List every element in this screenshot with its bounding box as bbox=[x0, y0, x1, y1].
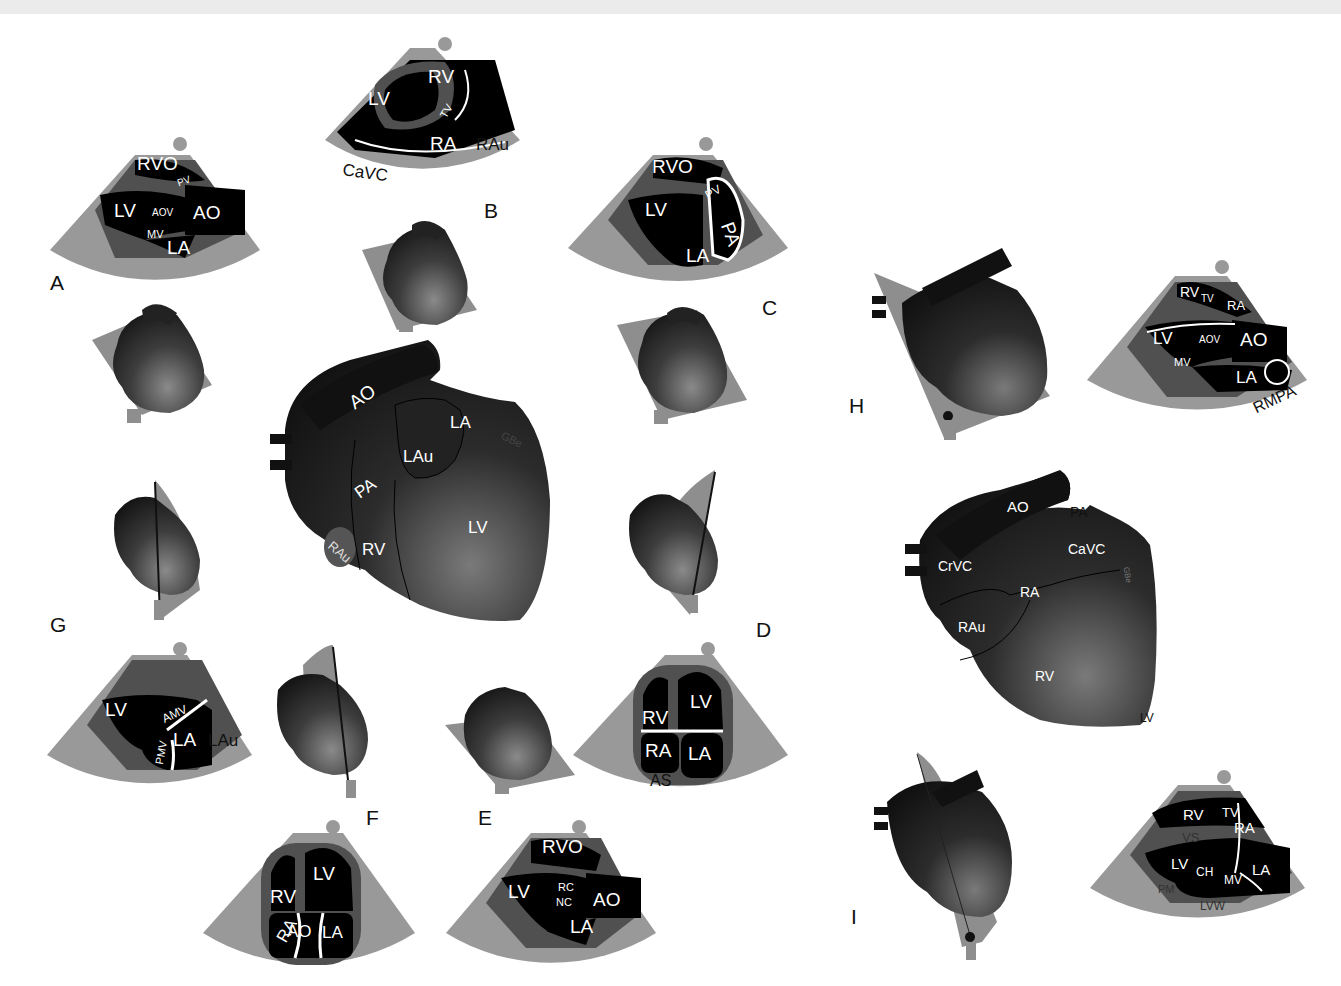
heart-r-cavc: CaVC bbox=[1068, 541, 1105, 557]
a-la: LA bbox=[167, 237, 191, 258]
small-heart-c bbox=[617, 307, 747, 424]
i-la: LA bbox=[1252, 861, 1270, 878]
i-lvw: LVW bbox=[1200, 899, 1226, 913]
panel-letter-h: H bbox=[849, 394, 864, 417]
d-lv: LV bbox=[690, 691, 712, 712]
e-rc: RC bbox=[558, 881, 574, 893]
panel-letter-a: A bbox=[50, 271, 64, 294]
f-ao: AO bbox=[287, 922, 312, 941]
h-mv: MV bbox=[1174, 356, 1191, 368]
e-la: LA bbox=[570, 916, 594, 937]
f-lv: LV bbox=[313, 863, 335, 884]
h-ao: AO bbox=[1240, 329, 1267, 350]
echo-view-h bbox=[1087, 260, 1307, 409]
h-lv: LV bbox=[1153, 329, 1173, 348]
panel-letter-g: G bbox=[50, 613, 66, 636]
panel-letter-i: I bbox=[851, 905, 857, 928]
e-nc: NC bbox=[556, 896, 572, 908]
b-rau: RAu bbox=[476, 135, 509, 154]
e-ao: AO bbox=[593, 889, 620, 910]
i-lv: LV bbox=[1171, 855, 1188, 872]
e-lv: LV bbox=[508, 881, 530, 902]
heart-l-lau: LAu bbox=[403, 447, 433, 466]
i-mv: MV bbox=[1224, 873, 1242, 887]
panel-letter-d: D bbox=[756, 618, 771, 641]
i-pm: PM bbox=[1158, 883, 1175, 895]
f-rv: RV bbox=[270, 886, 296, 907]
panel-letter-b: B bbox=[484, 199, 498, 222]
heart-l-la: LA bbox=[450, 413, 471, 432]
i-ch: CH bbox=[1196, 865, 1213, 879]
small-heart-i bbox=[874, 752, 1012, 960]
small-heart-d bbox=[629, 470, 718, 615]
a-ao: AO bbox=[193, 202, 220, 223]
c-la: LA bbox=[686, 245, 710, 266]
f-la: LA bbox=[322, 923, 343, 942]
g-lv: LV bbox=[105, 699, 127, 720]
e-rvo: RVO bbox=[542, 836, 583, 857]
heart-r-lv: LV bbox=[1140, 711, 1154, 725]
a-aov: AOV bbox=[152, 207, 173, 218]
i-rv: RV bbox=[1183, 806, 1204, 823]
d-ra: RA bbox=[645, 740, 672, 761]
echo-view-d bbox=[573, 642, 788, 786]
small-heart-h bbox=[872, 248, 1050, 440]
h-rv: RV bbox=[1180, 284, 1200, 300]
d-la: LA bbox=[688, 743, 712, 764]
heart-r-rau: RAu bbox=[958, 619, 985, 635]
i-tv: TV bbox=[1222, 805, 1239, 820]
heart-l-rv: RV bbox=[362, 540, 386, 559]
g-lau: LAu bbox=[208, 731, 238, 750]
heart-r-rv: RV bbox=[1035, 668, 1055, 684]
small-heart-g bbox=[114, 480, 200, 620]
c-lv: LV bbox=[645, 199, 667, 220]
i-vs: VS bbox=[1182, 830, 1200, 845]
h-ra: RA bbox=[1227, 298, 1245, 313]
h-tv: TV bbox=[1201, 293, 1214, 304]
a-rvo: RVO bbox=[137, 153, 178, 174]
small-heart-e bbox=[445, 687, 575, 794]
panel-letter-c: C bbox=[762, 296, 777, 319]
center-heart-lateral bbox=[270, 340, 550, 621]
b-rv: RV bbox=[428, 66, 454, 87]
echo-view-f bbox=[203, 820, 415, 965]
b-ra: RA bbox=[430, 133, 457, 154]
heart-r-ao: AO bbox=[1007, 498, 1029, 515]
echo-view-g bbox=[47, 642, 252, 783]
heart-l-lv: LV bbox=[468, 518, 488, 537]
small-heart-a bbox=[92, 304, 212, 423]
d-rv: RV bbox=[642, 707, 668, 728]
heart-r-pa: PA bbox=[1070, 504, 1088, 520]
heart-r-crvc: CrVC bbox=[938, 558, 972, 574]
i-ra: RA bbox=[1234, 819, 1255, 836]
h-la: LA bbox=[1236, 368, 1257, 387]
a-mv: MV bbox=[147, 228, 164, 240]
h-aov: AOV bbox=[1199, 334, 1220, 345]
echocardiography-views-diagram: LV RV TV RA RAu CaVC RVO PV LV AOV AO MV… bbox=[0, 0, 1341, 986]
small-heart-b bbox=[362, 221, 477, 332]
g-la: LA bbox=[173, 729, 197, 750]
heart-r-ra: RA bbox=[1020, 584, 1040, 600]
panel-letter-e: E bbox=[478, 806, 492, 829]
small-heart-f bbox=[277, 645, 368, 798]
panel-letter-f: F bbox=[366, 806, 379, 829]
d-as: AS bbox=[650, 772, 671, 789]
b-lv: LV bbox=[368, 88, 390, 109]
c-rvo: RVO bbox=[652, 156, 693, 177]
a-lv: LV bbox=[114, 200, 136, 221]
